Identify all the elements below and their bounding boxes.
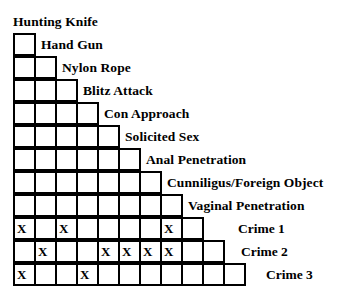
variable-label: Solicited Sex: [118, 125, 199, 148]
matrix-cell: [13, 171, 36, 194]
matrix-cell: [76, 102, 99, 125]
matrix-cell: [13, 148, 36, 171]
matrix-cell: [34, 263, 57, 286]
crime-row-0-cells: XXX: [13, 217, 202, 238]
matrix-row-variable: Cunniligus/Foreign Object: [13, 171, 323, 194]
variable-label: Blitz Attack: [76, 79, 153, 102]
crime-label: Crime 2: [223, 240, 288, 263]
matrix-cell-marked: X: [118, 240, 141, 263]
variable-label: Con Approach: [97, 102, 189, 125]
matrix-cell: [55, 79, 78, 102]
variable-row-4-cells: [13, 102, 97, 123]
variable-row-2-cells: [13, 56, 55, 77]
matrix-cell: [55, 148, 78, 171]
matrix-cell: [34, 102, 57, 125]
matrix-cell-marked: X: [55, 217, 78, 240]
matrix-cell: [34, 79, 57, 102]
matrix-cell: [76, 148, 99, 171]
matrix-cell: [118, 263, 141, 286]
matrix-row-variable: Vaginal Penetration: [13, 194, 323, 217]
matrix-cell-marked: X: [97, 240, 120, 263]
variable-row-7-cells: [13, 171, 160, 192]
matrix-cell: [97, 263, 120, 286]
matrix-cell: [13, 194, 36, 217]
matrix-cell-marked: X: [76, 263, 99, 286]
matrix-cell: [181, 240, 204, 263]
matrix-cell: [97, 194, 120, 217]
variable-row-1-cells: [13, 33, 34, 54]
matrix-cell: [97, 148, 120, 171]
crime-label: Crime 3: [244, 263, 313, 286]
matrix-cell: [118, 171, 141, 194]
matrix-cell: [34, 125, 57, 148]
matrix-cell: [97, 125, 120, 148]
crime-row-2-cells: XX: [13, 263, 244, 284]
matrix-cell: [34, 56, 57, 79]
matrix-row-variable: Hand Gun: [13, 33, 323, 56]
matrix-cell: [139, 171, 162, 194]
matrix-cell: [76, 125, 99, 148]
matrix-cell-marked: X: [34, 240, 57, 263]
matrix-cell: [55, 194, 78, 217]
matrix-cell-marked: X: [160, 217, 183, 240]
matrix-row-crime: XXXCrime 1: [13, 217, 323, 240]
crime-row-1-cells: XXXXX: [13, 240, 223, 261]
matrix-cell: [118, 148, 141, 171]
matrix-cell: [223, 263, 246, 286]
matrix-cell: [181, 217, 204, 240]
matrix-row-crime: XXXXXCrime 2: [13, 240, 323, 263]
matrix-cell: [55, 125, 78, 148]
matrix-row-crime: XXCrime 3: [13, 263, 323, 286]
matrix-cell: [118, 194, 141, 217]
matrix-cell: [55, 102, 78, 125]
matrix-cell: [97, 171, 120, 194]
matrix-row-variable: Anal Penetration: [13, 148, 323, 171]
matrix-cell: [160, 263, 183, 286]
variable-row-5-cells: [13, 125, 118, 146]
matrix-cell: [34, 148, 57, 171]
staircase-matrix: Hunting KnifeHand GunNylon RopeBlitz Att…: [13, 10, 323, 286]
crime-label: Crime 1: [202, 217, 285, 240]
matrix-cell-marked: X: [139, 240, 162, 263]
matrix-cell: [76, 217, 99, 240]
variable-label: Anal Penetration: [139, 148, 246, 171]
variable-label: Cunniligus/Foreign Object: [160, 171, 323, 194]
matrix-cell: [118, 217, 141, 240]
matrix-cell: [76, 240, 99, 263]
matrix-cell-marked: X: [160, 240, 183, 263]
matrix-cell: [181, 263, 204, 286]
variable-label: Hand Gun: [34, 33, 103, 56]
variable-row-6-cells: [13, 148, 139, 169]
matrix-cell: [34, 194, 57, 217]
matrix-cell: [34, 217, 57, 240]
matrix-cell: [139, 263, 162, 286]
matrix-cell: [139, 217, 162, 240]
matrix-cell: [139, 194, 162, 217]
matrix-cell: [202, 263, 225, 286]
matrix-cell: [97, 217, 120, 240]
matrix-cell: [76, 171, 99, 194]
matrix-cell: [13, 79, 36, 102]
variable-row-3-cells: [13, 79, 76, 100]
matrix-row-variable: Blitz Attack: [13, 79, 323, 102]
matrix-cell: [202, 240, 225, 263]
matrix-cell: [55, 263, 78, 286]
matrix-row-variable: Con Approach: [13, 102, 323, 125]
matrix-cell: [13, 56, 36, 79]
matrix-cell: [13, 240, 36, 263]
matrix-cell: [55, 171, 78, 194]
variable-label: Nylon Rope: [55, 56, 131, 79]
matrix-cell-marked: X: [13, 263, 36, 286]
variable-label: Vaginal Penetration: [181, 194, 305, 217]
matrix-row-variable: Solicited Sex: [13, 125, 323, 148]
variable-row-8-cells: [13, 194, 181, 215]
matrix-row-variable: Hunting Knife: [13, 10, 323, 33]
matrix-row-variable: Nylon Rope: [13, 56, 323, 79]
matrix-cell: [34, 171, 57, 194]
matrix-cell: [13, 102, 36, 125]
variable-label: Hunting Knife: [13, 10, 98, 33]
matrix-cell: [13, 125, 36, 148]
matrix-cell: [76, 194, 99, 217]
matrix-cell: [13, 33, 36, 56]
matrix-cell-marked: X: [13, 217, 36, 240]
